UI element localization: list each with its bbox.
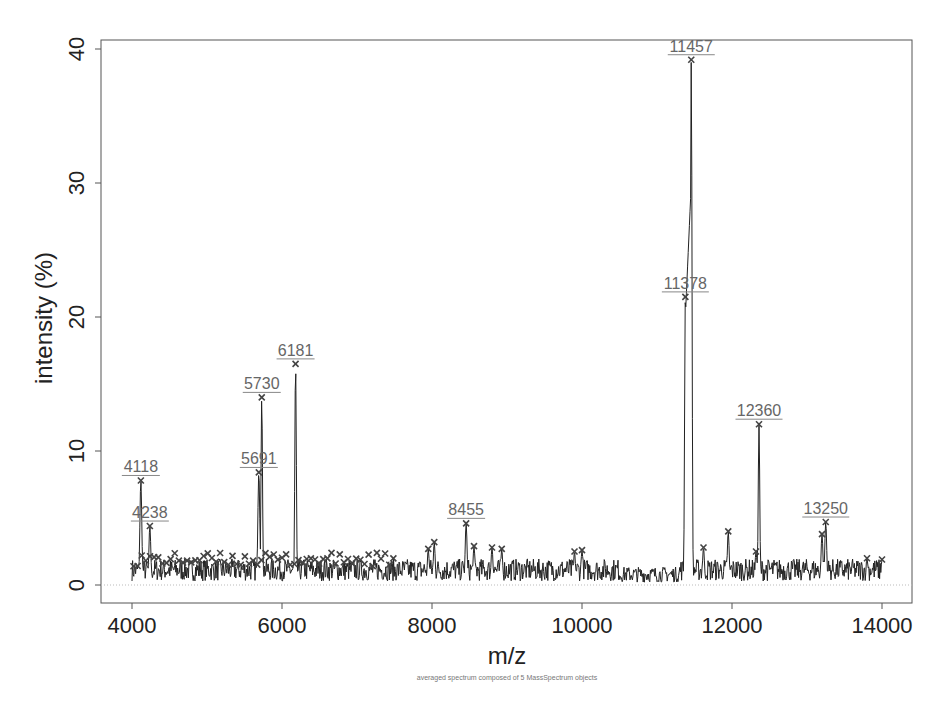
peak-marker (293, 361, 299, 367)
peak-label: 5691 (241, 450, 277, 467)
y-tick-label: 10 (64, 439, 89, 463)
spectrum-line (132, 62, 882, 582)
x-tick-label: 12000 (701, 613, 762, 638)
peak-label: 4238 (132, 504, 168, 521)
chart-subtitle: averaged spectrum composed of 5 MassSpec… (417, 674, 598, 682)
y-tick-label: 0 (64, 579, 89, 591)
noise-peak-marker (337, 551, 343, 557)
noise-peak-marker (155, 554, 161, 560)
x-tick-label: 4000 (108, 613, 157, 638)
plot-border (101, 40, 912, 603)
x-tick-label: 10000 (551, 613, 612, 638)
noise-peak-marker (230, 553, 236, 559)
noise-peak-marker (172, 550, 178, 556)
peak-label: 11378 (664, 275, 707, 292)
noise-peak-marker (283, 551, 289, 557)
peak-label: 5730 (244, 375, 280, 392)
peak-marker (682, 294, 688, 300)
plot-frame (101, 40, 912, 603)
peak-marker (259, 394, 265, 400)
y-tick-label: 40 (64, 37, 89, 61)
y-axis: 010203040 (64, 37, 101, 591)
noise-peak-marker (362, 561, 368, 567)
peak-label: 11457 (670, 38, 713, 55)
peak-markers (131, 57, 886, 570)
noise-peak-marker (217, 550, 223, 556)
noise-peak-marker (382, 551, 388, 557)
noise-peak-marker (374, 550, 380, 556)
y-tick-label: 20 (64, 305, 89, 329)
peak-label: 8455 (448, 501, 484, 518)
peak-labels: 4118423856915730618184551137811457123601… (122, 38, 849, 521)
mass-spectrum-chart: 010203040 400060008000100001200014000 41… (0, 0, 951, 714)
x-tick-label: 14000 (851, 613, 912, 638)
y-axis-title: intensity (%) (30, 252, 57, 384)
noise-peak-marker (366, 552, 372, 558)
peak-label: 6181 (278, 342, 314, 359)
x-tick-label: 8000 (408, 613, 457, 638)
x-axis: 400060008000100001200014000 (108, 603, 913, 638)
x-tick-label: 6000 (258, 613, 307, 638)
peak-label: 4118 (124, 458, 159, 475)
noise-peak-marker (324, 555, 330, 561)
x-axis-title: m/z (488, 642, 527, 669)
noise-peak-marker (329, 550, 335, 556)
noise-peak-marker (242, 553, 248, 559)
peak-label: 12360 (737, 402, 782, 419)
y-tick-label: 30 (64, 171, 89, 195)
peak-marker (688, 57, 694, 63)
peak-label: 13250 (804, 500, 849, 517)
